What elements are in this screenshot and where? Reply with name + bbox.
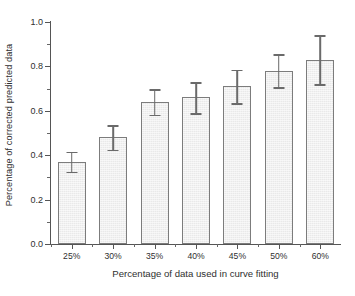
x-tick-minor (217, 244, 218, 247)
x-tick-minor (134, 244, 135, 247)
y-tick-label: 0.6 (30, 106, 43, 116)
error-bar-line (195, 82, 197, 113)
y-tick-minor (47, 133, 50, 134)
error-bar-line (237, 70, 239, 103)
bar (58, 162, 86, 244)
y-tick-mark (45, 22, 50, 23)
y-tick-label: 0.8 (30, 61, 43, 71)
bar (265, 71, 293, 244)
error-bar-cap-lower (315, 84, 326, 86)
error-bar-line (112, 125, 114, 149)
error-bar-cap-upper (232, 70, 243, 72)
y-tick-mark (45, 66, 50, 67)
error-bar-line (319, 35, 321, 84)
x-tick-label: 25% (63, 251, 80, 261)
x-tick-label: 45% (229, 251, 246, 261)
error-bar-cap-lower (149, 115, 160, 117)
error-bar-cap-upper (191, 82, 202, 84)
error-bar-line (71, 152, 73, 172)
x-tick-minor (51, 244, 52, 247)
x-tick-label: 35% (146, 251, 163, 261)
x-tick-minor (92, 244, 93, 247)
bar (99, 137, 127, 244)
error-bar-cap-upper (108, 125, 119, 127)
x-tick-mark (72, 244, 73, 249)
y-tick-minor (47, 89, 50, 90)
y-tick-label: 0.0 (30, 239, 43, 249)
x-tick-minor (175, 244, 176, 247)
y-axis-title-text: Percentage of corrected predicted data (4, 44, 14, 207)
x-tick-mark (320, 244, 321, 249)
bar (306, 60, 334, 244)
y-tick-label: 1.0 (30, 17, 43, 27)
bar (223, 86, 251, 244)
x-tick-mark (155, 244, 156, 249)
bar (141, 102, 169, 244)
y-tick-label: 0.4 (30, 150, 43, 160)
error-bar-cap-lower (108, 150, 119, 152)
error-bar-cap-upper (149, 89, 160, 91)
x-tick-label: 40% (187, 251, 204, 261)
error-bar-cap-upper (66, 152, 77, 154)
error-bar-cap-lower (191, 113, 202, 115)
error-bar-line (154, 89, 156, 115)
x-tick-mark (237, 244, 238, 249)
y-tick-mark (45, 155, 50, 156)
bar (182, 97, 210, 244)
error-bar-cap-lower (273, 87, 284, 89)
x-tick-mark (196, 244, 197, 249)
error-bar-cap-lower (232, 103, 243, 105)
x-tick-label: 60% (312, 251, 329, 261)
error-bar-cap-upper (273, 54, 284, 56)
y-axis-title: Percentage of corrected predicted data (0, 0, 18, 250)
y-tick-mark (45, 111, 50, 112)
plot-area: 0.00.20.40.60.81.0 25%30%35%40%45%50%60% (50, 22, 340, 244)
x-tick-label: 30% (105, 251, 122, 261)
y-tick-mark (45, 244, 50, 245)
y-tick-minor (47, 222, 50, 223)
x-tick-minor (300, 244, 301, 247)
x-tick-mark (113, 244, 114, 249)
error-bar-line (278, 54, 280, 87)
y-axis-line (50, 21, 51, 244)
x-axis-title: Percentage of data used in curve fitting (50, 268, 341, 279)
x-tick-label: 50% (270, 251, 287, 261)
scan-artifact (64, 2, 69, 7)
y-tick-label: 0.2 (30, 195, 43, 205)
y-tick-minor (47, 44, 50, 45)
error-bar-cap-upper (315, 35, 326, 37)
chart-figure: Percentage of corrected predicted data 0… (0, 0, 355, 296)
error-bar-cap-lower (66, 172, 77, 174)
x-tick-minor (258, 244, 259, 247)
x-tick-mark (279, 244, 280, 249)
y-tick-mark (45, 200, 50, 201)
y-tick-minor (47, 177, 50, 178)
